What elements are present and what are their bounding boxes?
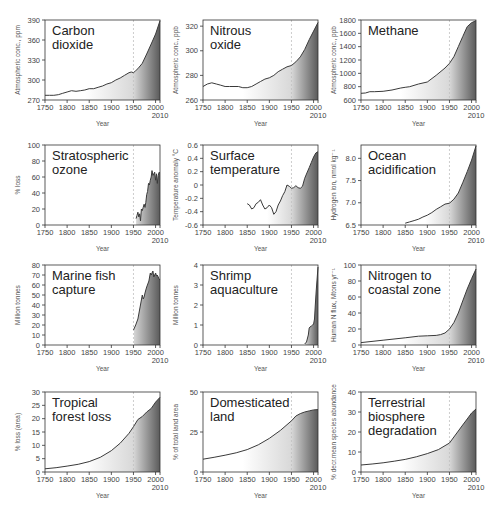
x-axis-title: Year xyxy=(254,245,268,252)
x-tick-label: 1800 xyxy=(375,348,392,357)
x-axis-title: Year xyxy=(412,492,426,499)
panel-title: Terrestrial xyxy=(368,395,425,410)
x-tick-label: 1900 xyxy=(103,103,120,112)
x-tick-label-2010: 2010 xyxy=(310,236,327,245)
panel-nitrous-oxide: 1750180018501900195020002010Year26028030… xyxy=(172,20,326,127)
y-tick-label: 50 xyxy=(32,291,40,300)
y-tick-label: 7.0 xyxy=(346,198,356,207)
x-tick-label-2010: 2010 xyxy=(468,483,485,492)
panel-terrestrial-biosphere-degradation: 1750180018501900195020002010Year01020304… xyxy=(330,384,484,499)
y-axis-title: Million tonnes xyxy=(172,284,179,324)
y-tick-label: 30 xyxy=(32,388,40,397)
y-tick-label: 0.4 xyxy=(188,154,198,163)
x-tick-label: 1950 xyxy=(125,348,142,357)
y-tick-label: 0 xyxy=(36,341,40,350)
y-tick-label: 80 xyxy=(348,277,356,286)
y-tick-label: 20 xyxy=(32,321,40,330)
y-tick-label: 390 xyxy=(27,16,40,25)
panel-title: Domesticated xyxy=(210,395,289,410)
x-tick-label-2010: 2010 xyxy=(468,111,485,120)
x-tick-label: 1800 xyxy=(217,475,234,484)
y-tick-label: 100 xyxy=(343,261,356,270)
x-axis-title: Year xyxy=(254,120,268,127)
y-tick-label: 0 xyxy=(36,468,40,477)
y-tick-label: 270 xyxy=(27,96,40,105)
panel-domesticated-land: 1750180018501900195020002010Year02550% o… xyxy=(172,388,326,499)
y-tick-label: 4 xyxy=(194,261,198,270)
y-tick-label: 1200 xyxy=(339,56,356,65)
x-axis-title: Year xyxy=(96,120,110,127)
x-axis-title: Year xyxy=(96,245,110,252)
x-tick-label: 1800 xyxy=(217,103,234,112)
y-tick-label: 50 xyxy=(190,388,198,397)
x-tick-label: 1850 xyxy=(397,228,414,237)
x-tick-label: 1850 xyxy=(239,103,256,112)
x-tick-label: 1950 xyxy=(283,228,300,237)
y-tick-label: 0.2 xyxy=(188,167,198,176)
y-tick-label: 7.5 xyxy=(346,176,356,185)
y-tick-label: 1600 xyxy=(339,29,356,38)
panel-title: forest loss xyxy=(52,409,112,424)
x-tick-label: 1800 xyxy=(217,348,234,357)
y-tick-label: 1800 xyxy=(339,16,356,25)
x-tick-label: 1950 xyxy=(441,103,458,112)
x-axis-title: Year xyxy=(412,245,426,252)
y-tick-label: 80 xyxy=(32,157,40,166)
y-tick-label: 20 xyxy=(348,428,356,437)
x-axis-title: Year xyxy=(96,492,110,499)
y-axis-title: Million tonnes xyxy=(14,284,21,324)
x-axis-title: Year xyxy=(412,120,426,127)
panel-title: Tropical xyxy=(52,395,98,410)
y-tick-label: 20 xyxy=(32,205,40,214)
y-tick-label: 80 xyxy=(32,261,40,270)
panel-stratospheric-ozone: 1750180018501900195020002010Year02040608… xyxy=(14,141,168,252)
y-tick-label: 0 xyxy=(194,181,198,190)
y-tick-label: 800 xyxy=(343,82,356,91)
y-tick-label: 15 xyxy=(32,428,40,437)
y-tick-label: 100 xyxy=(27,141,40,150)
x-tick-label: 1950 xyxy=(283,103,300,112)
panel-title: acidification xyxy=(368,162,436,177)
y-tick-label: 1400 xyxy=(339,42,356,51)
y-tick-label: 1 xyxy=(194,321,198,330)
x-tick-label-2010: 2010 xyxy=(152,111,169,120)
panel-title: Marine fish xyxy=(52,268,116,283)
x-tick-label-2010: 2010 xyxy=(152,356,169,365)
panel-title: Nitrous xyxy=(210,23,252,38)
y-tick-label: -0.6 xyxy=(185,221,198,230)
x-tick-label: 1800 xyxy=(59,475,76,484)
y-tick-label: 0 xyxy=(352,468,356,477)
y-tick-label: 600 xyxy=(343,96,356,105)
x-tick-label: 1850 xyxy=(81,475,98,484)
y-tick-label: 2 xyxy=(194,301,198,310)
y-tick-label: 0 xyxy=(352,341,356,350)
y-tick-label: 300 xyxy=(185,46,198,55)
area-fill xyxy=(405,146,476,225)
y-tick-label: 30 xyxy=(32,311,40,320)
x-tick-label-2010: 2010 xyxy=(310,483,327,492)
x-tick-label: 1800 xyxy=(375,475,392,484)
y-tick-label: 10 xyxy=(348,448,356,457)
y-axis-title: % loss (area) xyxy=(14,413,22,451)
x-tick-label-2010: 2010 xyxy=(152,236,169,245)
panel-title: degradation xyxy=(368,423,437,438)
x-tick-label: 1800 xyxy=(375,228,392,237)
x-tick-label: 1850 xyxy=(239,228,256,237)
y-axis-title: Temperature anomaly °C xyxy=(172,149,180,221)
y-tick-label: 10 xyxy=(32,331,40,340)
panel-surface-temperature: 1750180018501900195020002010Year-0.6-0.4… xyxy=(172,141,326,252)
y-tick-label: 30 xyxy=(348,408,356,417)
panel-title: coastal zone xyxy=(368,282,441,297)
x-tick-label: 1900 xyxy=(261,475,278,484)
panel-methane: 1750180018501900195020002010Year60080010… xyxy=(330,16,484,127)
x-axis-title: Year xyxy=(412,365,426,372)
x-tick-label: 1950 xyxy=(283,348,300,357)
x-tick-label-2010: 2010 xyxy=(310,356,327,365)
panel-title: ozone xyxy=(52,162,87,177)
x-tick-label: 1900 xyxy=(419,475,436,484)
panel-title: aquaculture xyxy=(210,282,278,297)
x-tick-label-2010: 2010 xyxy=(152,483,169,492)
panel-nitrogen-to-coastal-zone: 1750180018501900195020002010Year02040608… xyxy=(330,261,484,372)
y-axis-title: Hydrogen ion, nmol kg⁻¹ xyxy=(330,149,338,221)
x-tick-label: 1800 xyxy=(59,103,76,112)
